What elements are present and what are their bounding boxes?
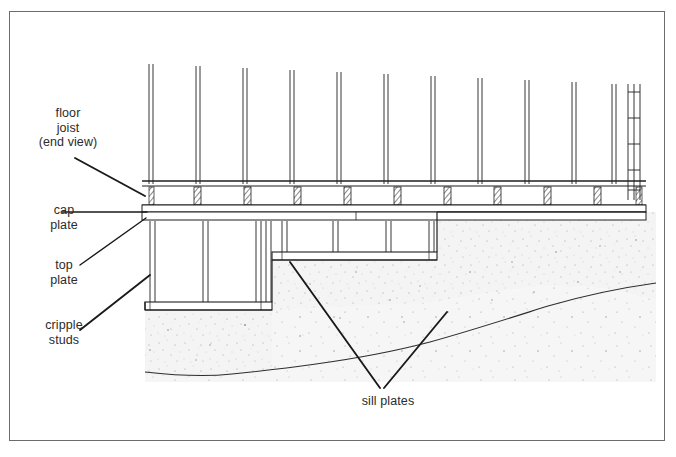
label-cap-plate: cap plate [22,203,106,232]
corner-post-ladder-detail [628,84,640,200]
upper-wall-studs [149,64,616,184]
soil-region-left-lower [145,310,272,378]
label-cripple-studs: cripple studs [16,318,112,347]
upper-sill-plate [272,252,437,260]
floor-joists-end-view [149,187,642,205]
label-top-plate: top plate [22,258,106,287]
ground-and-concrete [145,212,656,382]
lower-sill-plate [145,302,272,310]
cripple-studs-lower [150,221,271,304]
cap-plate-band [142,205,646,212]
leader-floor-joist [75,158,145,196]
top-plate-band [142,212,646,220]
floor-joist-band [142,181,646,205]
label-sill-plates: sill plates [333,394,443,409]
figure-canvas: floor joist (end view) cap plate top pla… [0,0,676,457]
label-floor-joist: floor joist (end view) [18,106,118,150]
